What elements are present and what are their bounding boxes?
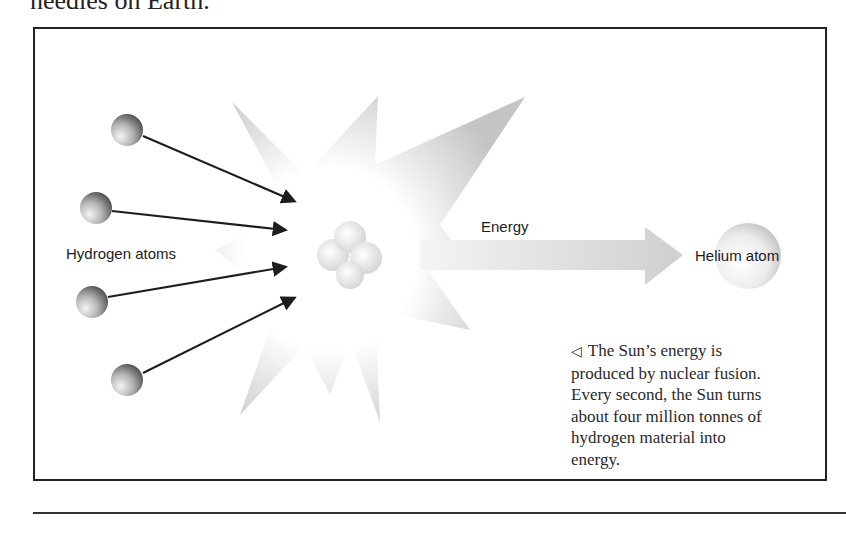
- horizontal-rule: [33, 512, 846, 514]
- hydrogen-atom-sphere-icon: [111, 364, 143, 396]
- hydrogen-atom-sphere-icon: [76, 286, 108, 318]
- block-arrow-right-icon: [420, 227, 683, 285]
- caption-line-2: produced by nuclear fusion.: [571, 363, 831, 385]
- hydrogen-atom-sphere-icon: [80, 192, 112, 224]
- caption-line-4: about four million tonnes of: [571, 406, 831, 428]
- energy-label: Energy: [481, 218, 529, 235]
- arrow-right-icon: [112, 211, 285, 230]
- caption-line-6: energy.: [571, 449, 831, 471]
- helium-atom-label: Helium atom: [695, 247, 779, 264]
- caption-line-1: ◁The Sun’s energy is: [571, 340, 831, 363]
- hydrogen-atom-sphere-icon: [111, 114, 143, 146]
- triangle-left-icon: ◁: [571, 343, 582, 359]
- caption-line-3: Every second, the Sun turns: [571, 384, 831, 406]
- caption-line-5: hydrogen material into: [571, 427, 831, 449]
- figure-caption: ◁The Sun’s energy is produced by nuclear…: [571, 340, 831, 470]
- caption-text: The Sun’s energy is: [588, 341, 722, 360]
- hydrogen-atoms-label: Hydrogen atoms: [66, 245, 176, 262]
